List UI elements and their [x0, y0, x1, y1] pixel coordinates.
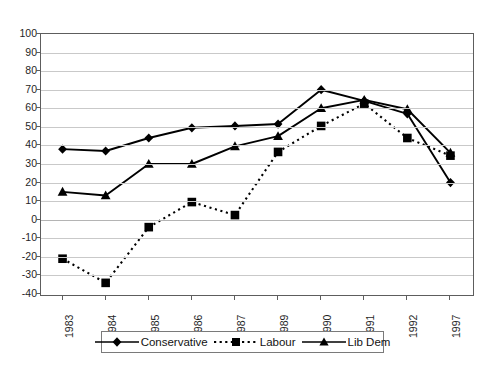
- series-conservative: [58, 85, 455, 187]
- y-tick-mark: [36, 237, 40, 238]
- y-tick-label: 10: [3, 195, 37, 205]
- y-tick-label: 40: [3, 139, 37, 149]
- x-tick-mark: [191, 296, 192, 300]
- gridline: [41, 220, 473, 221]
- gridline: [41, 127, 473, 128]
- y-tick-mark: [36, 200, 40, 201]
- x-tick-mark: [277, 296, 278, 300]
- gridline: [41, 238, 473, 239]
- x-tick-mark: [62, 296, 63, 300]
- y-tick-label: 70: [3, 84, 37, 94]
- legend-marker-square-icon: [214, 336, 258, 348]
- y-tick-mark: [36, 219, 40, 220]
- y-tick-mark: [36, 256, 40, 257]
- y-tick-mark: [36, 52, 40, 53]
- y-tick-label: 20: [3, 177, 37, 187]
- legend-marker-triangle-icon: [302, 336, 346, 348]
- y-tick-label: 50: [3, 121, 37, 131]
- y-tick-mark: [36, 126, 40, 127]
- y-tick-mark: [36, 182, 40, 183]
- y-tick-label: 60: [3, 102, 37, 112]
- y-axis: 1009080706050403020100-10-20-30-40: [0, 33, 37, 296]
- y-tick-label: 80: [3, 65, 37, 75]
- legend-marker-diamond-icon: [95, 336, 139, 348]
- y-tick-label: -40: [3, 288, 37, 298]
- x-tick-mark: [320, 296, 321, 300]
- x-tick-mark: [406, 296, 407, 300]
- gridline: [41, 275, 473, 276]
- y-tick-label: -20: [3, 251, 37, 261]
- legend-label-labour: Labour: [258, 336, 296, 348]
- x-tick-mark: [234, 296, 235, 300]
- x-tick-label: 1997: [450, 298, 462, 338]
- x-tick-mark: [105, 296, 106, 300]
- y-tick-mark: [36, 144, 40, 145]
- y-tick-label: 30: [3, 158, 37, 168]
- x-tick-mark: [449, 296, 450, 300]
- line-chart: 1009080706050403020100-10-20-30-40 19831…: [0, 0, 486, 369]
- x-tick-mark: [148, 296, 149, 300]
- legend-item-lib-dem: Lib Dem: [299, 336, 394, 348]
- gridline: [41, 90, 473, 91]
- gridline: [41, 201, 473, 202]
- x-tick-mark: [363, 296, 364, 300]
- legend-item-labour: Labour: [211, 336, 299, 348]
- y-tick-label: 0: [3, 214, 37, 224]
- x-tick-label: 1992: [407, 298, 419, 338]
- x-tick-label: 1983: [63, 298, 75, 338]
- y-tick-mark: [36, 33, 40, 34]
- gridline: [41, 145, 473, 146]
- y-tick-mark: [36, 107, 40, 108]
- y-tick-mark: [36, 293, 40, 294]
- y-tick-mark: [36, 163, 40, 164]
- chart-legend: Conservative Labour Lib Dem: [101, 331, 384, 353]
- y-tick-label: -10: [3, 232, 37, 242]
- gridline: [41, 71, 473, 72]
- y-tick-mark: [36, 274, 40, 275]
- plot-area: [40, 33, 474, 296]
- y-tick-label: 90: [3, 47, 37, 57]
- y-tick-label: -30: [3, 269, 37, 279]
- gridline: [41, 164, 473, 165]
- y-tick-mark: [36, 70, 40, 71]
- gridline: [41, 108, 473, 109]
- y-tick-label: 100: [3, 28, 37, 38]
- gridline: [41, 183, 473, 184]
- y-tick-mark: [36, 89, 40, 90]
- legend-label-lib-dem: Lib Dem: [346, 336, 391, 348]
- legend-label-conservative: Conservative: [139, 336, 208, 348]
- gridline: [41, 53, 473, 54]
- gridline: [41, 257, 473, 258]
- legend-item-conservative: Conservative: [92, 336, 211, 348]
